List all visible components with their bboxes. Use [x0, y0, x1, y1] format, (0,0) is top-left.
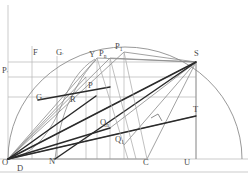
label-U: U	[184, 158, 190, 167]
label-F: F	[33, 48, 38, 57]
label-D: D	[17, 164, 23, 173]
label-G: G	[36, 93, 42, 102]
label-N: N	[49, 157, 55, 166]
label-O: O	[2, 158, 8, 167]
label-R: R	[70, 95, 76, 104]
drop-P1-to-C	[124, 52, 147, 159]
chord-S-Qn	[110, 62, 196, 128]
label-Q1: Q1	[115, 135, 124, 144]
bold-O-to-S	[8, 62, 196, 159]
label-Qn: Qn	[100, 118, 109, 127]
grey-rays-from-origin	[8, 52, 196, 159]
right-angle-square	[151, 114, 162, 121]
label-P: P	[88, 81, 93, 90]
bold-segments	[8, 62, 196, 159]
right-angle-marker	[151, 114, 162, 121]
label-P-prime: P′	[2, 66, 8, 75]
geometry-figure: O D N C U F G′ P′ G R Y Pn P1 P Qn Q1 S …	[0, 0, 248, 182]
ray-O-to-P1	[8, 52, 124, 159]
label-Pn: Pn	[99, 49, 106, 58]
ray-O-to-Y	[8, 58, 97, 159]
semicircle-arc	[8, 47, 242, 159]
label-C: C	[143, 158, 149, 167]
label-P1: P1	[115, 42, 122, 51]
label-Y: Y	[89, 50, 95, 59]
figure-canvas	[0, 0, 248, 182]
label-T: T	[193, 105, 198, 114]
label-S: S	[194, 49, 199, 58]
label-G-prime: G′	[56, 48, 63, 57]
